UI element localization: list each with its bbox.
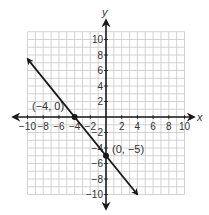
y-tick-label: 4 (97, 81, 103, 92)
y-tick-label: 2 (97, 96, 103, 107)
x-axis-label: x (196, 111, 203, 123)
y-tick-label: −10 (86, 189, 103, 200)
x-tick-label: 4 (135, 121, 141, 132)
x-tick-label: 10 (179, 121, 191, 132)
x-tick-label: −8 (37, 121, 49, 132)
y-tick-label: 6 (97, 65, 103, 76)
axes (13, 20, 194, 209)
y-axis-label: y (101, 6, 109, 18)
y-tick-label: −8 (92, 174, 104, 185)
x-tick-label: 2 (119, 121, 125, 132)
x-tick-label: −6 (53, 121, 65, 132)
point-marker (72, 114, 78, 120)
y-tick-label: 8 (97, 50, 103, 61)
coordinate-plane: −10−8−6−4−2246810108642−2−4−6−8−10 (−4, … (0, 0, 209, 215)
x-tick-label: 8 (166, 121, 172, 132)
point-marker (103, 153, 109, 159)
y-tick-label: −2 (92, 127, 104, 138)
x-tick-label: 6 (150, 121, 156, 132)
y-tick-label: −6 (92, 158, 104, 169)
y-tick-label: 10 (92, 34, 104, 45)
x-tick-label: −10 (19, 121, 36, 132)
point-label: (0, −5) (112, 143, 144, 155)
point-label: (−4, 0) (32, 100, 64, 112)
